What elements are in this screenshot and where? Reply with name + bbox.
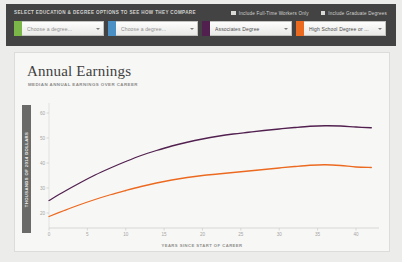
svg-text:35: 35: [315, 232, 321, 237]
series-color-swatch-3: [202, 21, 210, 36]
degree-selector-1[interactable]: Choose a degree...: [14, 21, 104, 36]
chevron-down-icon[interactable]: [96, 28, 100, 30]
checkbox-filled-icon[interactable]: [321, 11, 326, 16]
checkbox-full-time-workers[interactable]: Include Full-Time Workers Only: [231, 11, 309, 16]
chart-subtitle: MEDIAN ANNUAL EARNINGS OVER CAREER: [28, 82, 138, 87]
degree-dropdown-3[interactable]: Associates Degree: [210, 21, 292, 36]
degree-dropdown-2[interactable]: Choose a degree...: [116, 21, 198, 36]
earnings-explorer-app: SELECT EDUCATION & DEGREE OPTIONS TO SEE…: [0, 0, 402, 262]
series-color-swatch-4: [296, 21, 304, 36]
degree-dropdown-1-value: Choose a degree...: [27, 26, 72, 32]
series-line-1: [49, 126, 371, 201]
degree-dropdown-1[interactable]: Choose a degree...: [22, 21, 104, 36]
svg-text:50: 50: [40, 136, 46, 141]
svg-text:5: 5: [86, 232, 89, 237]
degree-selector-3[interactable]: Associates Degree: [202, 21, 292, 36]
plot-area: 20304050600510152025303540: [33, 99, 385, 244]
svg-text:25: 25: [238, 232, 244, 237]
chevron-down-icon[interactable]: [284, 28, 288, 30]
svg-text:0: 0: [48, 232, 51, 237]
series-color-swatch-1: [14, 21, 22, 36]
y-axis-label-text: THOUSANDS OF 2014 DOLLARS: [24, 131, 29, 206]
chart-panel: Annual Earnings MEDIAN ANNUAL EARNINGS O…: [14, 52, 390, 252]
degree-dropdown-3-value: Associates Degree: [215, 26, 260, 32]
svg-text:30: 30: [277, 232, 283, 237]
checkbox-full-time-workers-label: Include Full-Time Workers Only: [239, 11, 309, 16]
checkbox-graduate-degrees[interactable]: Include Graduate Degrees: [321, 11, 387, 16]
svg-text:30: 30: [40, 186, 46, 191]
degree-selector-row: Choose a degree... Choose a degree... As…: [14, 21, 386, 36]
chevron-down-icon[interactable]: [190, 28, 194, 30]
checkbox-graduate-degrees-label: Include Graduate Degrees: [328, 11, 387, 16]
svg-text:40: 40: [40, 161, 46, 166]
svg-text:20: 20: [200, 232, 206, 237]
svg-text:15: 15: [162, 232, 168, 237]
degree-dropdown-4[interactable]: High School Degree or ...: [304, 21, 386, 36]
line-chart-svg: 20304050600510152025303540: [33, 99, 385, 244]
degree-selector-4[interactable]: High School Degree or ...: [296, 21, 386, 36]
y-axis-label: THOUSANDS OF 2014 DOLLARS: [22, 105, 31, 233]
svg-text:40: 40: [353, 232, 359, 237]
checkbox-group: Include Full-Time Workers Only Include G…: [231, 9, 387, 17]
degree-dropdown-2-value: Choose a degree...: [121, 26, 166, 32]
chart-title: Annual Earnings: [27, 63, 131, 79]
x-axis-label: YEARS SINCE START OF CAREER: [15, 243, 389, 248]
checkbox-checked-icon[interactable]: [231, 11, 236, 16]
svg-text:60: 60: [40, 111, 46, 116]
control-bar: SELECT EDUCATION & DEGREE OPTIONS TO SEE…: [6, 4, 396, 46]
svg-text:10: 10: [123, 232, 129, 237]
series-line-2: [49, 165, 371, 217]
degree-dropdown-4-value: High School Degree or ...: [309, 26, 369, 32]
chevron-down-icon[interactable]: [378, 28, 382, 30]
svg-text:20: 20: [40, 211, 46, 216]
degree-selector-2[interactable]: Choose a degree...: [108, 21, 198, 36]
series-color-swatch-2: [108, 21, 116, 36]
